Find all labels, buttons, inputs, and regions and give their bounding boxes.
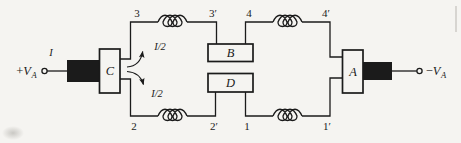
- terminal-left-subscript: A: [32, 69, 37, 79]
- circuit-figure: 3 3′ 4 4′ 2 2′ 1 1′ I I/2 I/2 C B D A +V…: [0, 0, 461, 143]
- node-label-4: 4: [246, 8, 252, 19]
- terminal-circle-right: [417, 68, 422, 73]
- wire-2p-to-D: [187, 92, 216, 116]
- current-label-lower: I/2: [151, 89, 163, 100]
- scan-artifact: [455, 6, 457, 32]
- terminal-right-sign: −: [426, 64, 433, 78]
- node-label-1-prime: 1′: [323, 121, 331, 132]
- wire-node3-branch: [120, 22, 158, 59]
- terminal-label-right: −VA: [426, 65, 446, 80]
- node-label-2-prime: 2′: [210, 121, 218, 132]
- terminal-label-left: +VA: [16, 64, 36, 79]
- terminal-right-symbol: V: [433, 64, 441, 78]
- scan-artifact: [2, 126, 24, 140]
- wire-3p-to-B: [187, 22, 217, 44]
- inductor-1-1p: [273, 109, 302, 120]
- taper-block-right: [363, 62, 392, 80]
- terminal-left-symbol: V: [23, 63, 31, 77]
- inductor-4-4p: [273, 15, 302, 26]
- wire-4p-to-A: [302, 22, 343, 57]
- node-label-3-prime: 3′: [209, 8, 217, 19]
- taper-block-left: [67, 60, 99, 82]
- block-label-B: B: [227, 46, 235, 59]
- arrow-current-lower: [127, 72, 144, 85]
- node-label-1: 1: [244, 121, 250, 132]
- current-label-input: I: [49, 48, 53, 59]
- wire-1p-to-A: [302, 78, 343, 116]
- node-label-2: 2: [131, 121, 137, 132]
- block-label-D: D: [226, 76, 235, 89]
- terminal-right-subscript: A: [441, 70, 446, 80]
- inductor-3-3p: [158, 15, 187, 26]
- wire-1-from-D: [246, 92, 274, 116]
- current-label-upper: I/2: [154, 42, 166, 53]
- block-label-C: C: [106, 65, 114, 78]
- node-label-3: 3: [134, 8, 140, 19]
- block-label-A: A: [349, 65, 357, 78]
- wire-4-from-B: [246, 22, 274, 44]
- terminal-circle-left: [42, 68, 47, 73]
- node-label-4-prime: 4′: [322, 8, 330, 19]
- terminal-left-sign: +: [16, 63, 23, 77]
- inductor-2-2p: [158, 109, 187, 120]
- schematic-canvas: [0, 0, 461, 143]
